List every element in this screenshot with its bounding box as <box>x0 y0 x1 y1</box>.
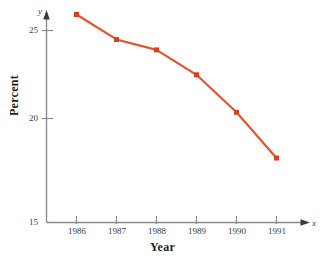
chart-plot-area <box>0 0 325 258</box>
data-point-1988 <box>154 47 159 52</box>
line-chart-figure: y x 25 20 15 1986 1987 1988 1989 1990 19… <box>0 0 325 258</box>
x-tick-label-1988: 1988 <box>135 226 179 236</box>
data-point-markers <box>74 12 279 161</box>
data-point-1986 <box>74 12 79 17</box>
data-point-1989 <box>194 72 199 77</box>
y-axis-title: Percent <box>7 60 22 132</box>
x-axis-variable-label: x <box>312 218 316 228</box>
data-point-1990 <box>234 110 239 115</box>
y-tick-label-15: 15 <box>12 217 38 227</box>
x-tick-label-1986: 1986 <box>55 226 99 236</box>
x-tick-label-1987: 1987 <box>95 226 139 236</box>
data-point-1991 <box>274 156 279 161</box>
data-series-line <box>77 15 277 159</box>
data-point-1987 <box>114 37 119 42</box>
x-axis <box>47 219 311 226</box>
y-tick-label-25: 25 <box>12 25 38 35</box>
x-tick-label-1990: 1990 <box>215 226 259 236</box>
x-tick-label-1989: 1989 <box>175 226 219 236</box>
y-axis-ticks <box>42 31 53 119</box>
y-axis-variable-label: y <box>38 6 42 16</box>
x-axis-title: Year <box>0 240 325 255</box>
x-tick-label-1991: 1991 <box>255 226 299 236</box>
y-axis <box>43 10 50 223</box>
